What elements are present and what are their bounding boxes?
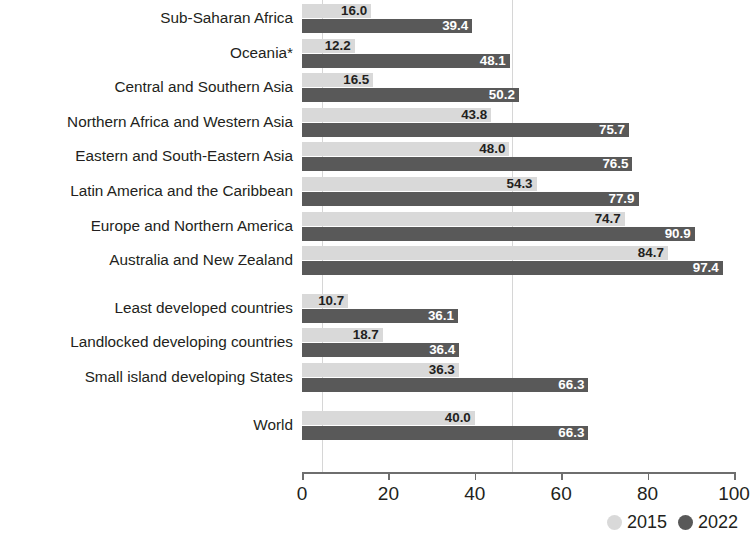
category-label: Eastern and South-Eastern Asia [75, 141, 293, 171]
x-axis-tick [648, 472, 650, 480]
bar-2015: 12.2 [302, 39, 355, 53]
bar-row: Sub-Saharan Africa16.039.4 [302, 3, 734, 33]
x-axis: 020406080100 [302, 472, 734, 474]
bar-2022: 97.4 [302, 261, 723, 275]
legend-label: 2022 [698, 513, 738, 531]
category-label: Australia and New Zealand [109, 245, 293, 275]
bar-2022: 90.9 [302, 227, 695, 241]
bar-row: Northern Africa and Western Asia43.875.7 [302, 107, 734, 137]
legend-label: 2015 [627, 513, 667, 531]
bar-value-label: 18.7 [353, 328, 379, 342]
circle-icon [678, 515, 693, 530]
x-axis-tick-label: 60 [551, 483, 572, 505]
bar-value-label: 39.4 [442, 19, 468, 33]
category-label: Sub-Saharan Africa [160, 3, 293, 33]
bar-2022: 66.3 [302, 426, 588, 440]
bar-value-label: 16.5 [343, 73, 369, 87]
category-label: Latin America and the Caribbean [70, 176, 293, 206]
bar-value-label: 10.7 [318, 294, 344, 308]
category-label: World [253, 410, 293, 440]
bar-value-label: 66.3 [558, 378, 584, 392]
bar-value-label: 36.1 [428, 309, 454, 323]
x-axis-tick [734, 472, 736, 480]
category-label: Northern Africa and Western Asia [67, 107, 293, 137]
bar-value-label: 48.0 [479, 142, 505, 156]
bar-value-label: 76.5 [602, 157, 628, 171]
x-axis-tick [561, 472, 563, 480]
category-label: Least developed countries [114, 293, 293, 323]
x-axis-tick-label: 100 [718, 483, 750, 505]
bar-row: Eastern and South-Eastern Asia48.076.5 [302, 141, 734, 171]
bar-2022: 36.1 [302, 309, 458, 323]
bar-value-label: 43.8 [461, 108, 487, 122]
x-axis-tick [475, 472, 477, 480]
bar-row: Landlocked developing countries18.736.4 [302, 327, 734, 357]
bar-2015: 36.3 [302, 363, 459, 377]
bar-value-label: 84.7 [638, 246, 664, 260]
bar-2022: 36.4 [302, 343, 459, 357]
bar-value-label: 74.7 [595, 212, 621, 226]
bar-value-label: 36.3 [429, 363, 455, 377]
bar-value-label: 75.7 [599, 123, 625, 137]
legend-item-2022[interactable]: 2022 [678, 513, 738, 531]
category-label: Landlocked developing countries [70, 327, 293, 357]
bar-2015: 10.7 [302, 294, 348, 308]
bar-row: Europe and Northern America74.790.9 [302, 211, 734, 241]
bar-2022: 39.4 [302, 19, 472, 33]
bar-value-label: 16.0 [341, 4, 367, 18]
circle-icon [607, 515, 622, 530]
bar-2015: 43.8 [302, 108, 491, 122]
bar-2022: 76.5 [302, 157, 632, 171]
category-label: Oceania* [230, 38, 293, 68]
category-label: Central and Southern Asia [114, 72, 293, 102]
bar-value-label: 97.4 [693, 261, 719, 275]
bar-row: Oceania*12.248.1 [302, 38, 734, 68]
bar-value-label: 48.1 [480, 54, 506, 68]
bar-row: Small island developing States36.366.3 [302, 362, 734, 392]
bar-chart: Sub-Saharan Africa16.039.4Oceania*12.248… [0, 0, 752, 544]
bar-2022: 50.2 [302, 88, 519, 102]
bar-2015: 16.5 [302, 73, 373, 87]
x-axis-tick-label: 0 [297, 483, 308, 505]
chart-legend: 20152022 [607, 513, 738, 531]
bar-row: World40.066.3 [302, 410, 734, 440]
bar-2015: 54.3 [302, 177, 537, 191]
bar-2015: 16.0 [302, 4, 371, 18]
bar-value-label: 40.0 [445, 411, 471, 425]
x-axis-tick [388, 472, 390, 480]
legend-item-2015[interactable]: 2015 [607, 513, 667, 531]
bar-value-label: 66.3 [558, 426, 584, 440]
category-label: Small island developing States [85, 362, 293, 392]
bar-value-label: 54.3 [507, 177, 533, 191]
bar-value-label: 90.9 [665, 227, 691, 241]
bar-2022: 48.1 [302, 54, 510, 68]
bar-value-label: 12.2 [325, 39, 351, 53]
bar-2015: 40.0 [302, 411, 475, 425]
bar-2015: 74.7 [302, 212, 625, 226]
bar-2022: 77.9 [302, 192, 639, 206]
bar-2022: 75.7 [302, 123, 629, 137]
bar-2022: 66.3 [302, 378, 588, 392]
bar-row: Australia and New Zealand84.797.4 [302, 245, 734, 275]
bar-value-label: 36.4 [429, 343, 455, 357]
bar-2015: 18.7 [302, 328, 383, 342]
x-axis-tick-label: 80 [637, 483, 658, 505]
bar-2015: 84.7 [302, 246, 668, 260]
x-axis-tick [302, 472, 304, 480]
bar-value-label: 77.9 [608, 192, 634, 206]
bar-value-label: 50.2 [489, 88, 515, 102]
bar-row: Least developed countries10.736.1 [302, 293, 734, 323]
category-label: Europe and Northern America [91, 211, 293, 241]
bar-2015: 48.0 [302, 142, 509, 156]
x-axis-tick-label: 20 [378, 483, 399, 505]
plot-area: Sub-Saharan Africa16.039.4Oceania*12.248… [302, 0, 734, 472]
x-axis-tick-label: 40 [464, 483, 485, 505]
bar-row: Central and Southern Asia16.550.2 [302, 72, 734, 102]
bar-row: Latin America and the Caribbean54.377.9 [302, 176, 734, 206]
